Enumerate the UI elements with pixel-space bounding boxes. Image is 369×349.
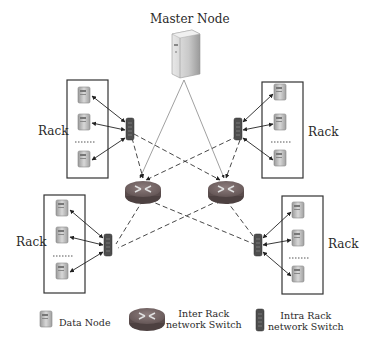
master-links xyxy=(140,80,224,178)
legend-intra-switch-label: Intra Rack network Switch xyxy=(268,310,344,332)
inter-switch-left xyxy=(125,181,161,204)
intra-switch-top-right xyxy=(234,118,242,140)
network-diagram xyxy=(0,0,369,349)
rack-label-bottom-left: Rack xyxy=(16,235,46,249)
legend-intra-line2: network Switch xyxy=(268,321,344,332)
intra-switch-bottom-right xyxy=(254,234,262,256)
inter-switch-right xyxy=(208,181,244,204)
rack-label-top-left: Rack xyxy=(38,124,68,138)
master-node-icon xyxy=(172,30,200,78)
rack-top-right-servers xyxy=(271,84,292,166)
intra-switch-bottom-left xyxy=(104,234,112,256)
legend-intra-line1: Intra Rack xyxy=(268,310,344,321)
rack-top-left-servers xyxy=(75,87,96,167)
intra-switch-top-left xyxy=(126,118,134,140)
rack-label-bottom-right: Rack xyxy=(328,237,358,251)
legend-inter-line2: network Switch xyxy=(166,319,242,330)
legend-data-node-label: Data Node xyxy=(59,317,111,328)
legend-inter-switch-label: Inter Rack network Switch xyxy=(166,308,242,330)
rack-bottom-right-servers xyxy=(289,202,310,282)
rack-bottom-left-servers xyxy=(53,200,74,279)
legend-inter-line1: Inter Rack xyxy=(166,308,242,319)
legend-intra-switch-icon xyxy=(256,309,264,331)
master-node-label: Master Node xyxy=(150,12,230,26)
legend-data-node-icon xyxy=(40,311,52,327)
rack-label-top-right: Rack xyxy=(308,125,338,139)
legend-inter-switch-icon xyxy=(129,308,165,331)
